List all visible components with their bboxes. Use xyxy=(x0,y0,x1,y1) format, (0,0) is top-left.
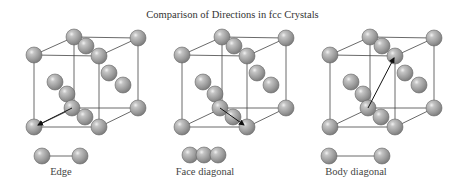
body-diagonal-arrow xyxy=(368,58,394,108)
caption-edge: Edge xyxy=(1,166,121,177)
panel-edge xyxy=(26,29,146,164)
caption-face-diagonal: Face diagonal xyxy=(145,166,265,177)
caption-body-diagonal: Body diagonal xyxy=(296,166,416,177)
fcc-diagram xyxy=(0,0,465,188)
edge-direction-arrow xyxy=(38,108,72,125)
panel-body-diagonal xyxy=(321,29,442,164)
panel-face-diagonal xyxy=(174,29,294,163)
